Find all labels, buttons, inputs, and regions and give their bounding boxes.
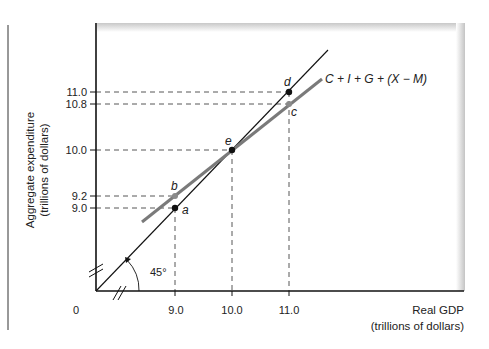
point-label-a: a (182, 203, 189, 217)
x-axis-title: Real GDP (412, 304, 464, 316)
origin-label: 0 (73, 304, 79, 316)
y-tick-label: 9.2 (72, 190, 87, 202)
angle-arc (127, 260, 139, 291)
point-b (172, 193, 178, 199)
y-tick-label: 9.0 (72, 202, 87, 214)
point-label-e: e (225, 134, 232, 148)
y-ticks (90, 92, 96, 208)
point-a (172, 205, 178, 211)
y-tick-label: 10.8 (66, 98, 87, 110)
curve-label: C + I + G + (X − M) (325, 72, 427, 86)
frame-top-shade (97, 23, 464, 32)
y-tick-label: 11.0 (66, 86, 87, 98)
x-axis-title: (trillions of dollars) (371, 320, 464, 332)
angle-label: 45° (150, 266, 167, 278)
chart-canvas: 11.0 10.8 10.0 9.2 9.0 9.0 10.0 11.0 0 4… (0, 0, 489, 349)
y-axis-title: Aggregate expenditure (24, 112, 36, 228)
x-tick-label: 11.0 (279, 304, 300, 316)
y-tick-label: 10.0 (66, 144, 87, 156)
45-degree-line (96, 50, 328, 291)
x-tick-label: 9.0 (168, 304, 183, 316)
frame-right-shade (456, 23, 465, 291)
axis-break-marks (89, 264, 126, 300)
point-label-d: d (284, 75, 291, 89)
x-tick-label: 10.0 (221, 304, 242, 316)
y-axis-title: (trillions of dollars) (38, 123, 50, 216)
point-label-c: c (291, 105, 297, 119)
point-d (286, 89, 292, 95)
point-label-b: b (171, 179, 178, 193)
